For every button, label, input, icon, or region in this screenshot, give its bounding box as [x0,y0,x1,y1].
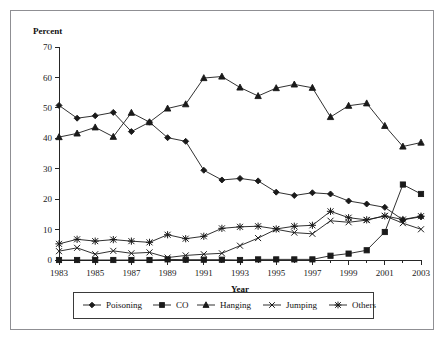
data-point-square [364,248,369,253]
data-point-diamond [74,115,80,121]
data-point-square [75,257,80,262]
data-point-asterisk [200,233,207,240]
y-tick-label: 40 [43,133,53,143]
data-point-asterisk [381,212,388,219]
x-tick-label: 1997 [303,268,322,278]
y-tick-label: 70 [43,42,53,52]
y-tick-label: 50 [43,103,53,113]
data-point-diamond [382,204,388,210]
data-point-square [256,257,261,262]
data-point-diamond [183,138,189,144]
data-point-asterisk [327,208,334,215]
data-point-asterisk [399,216,406,223]
data-point-triangle [255,93,261,99]
data-point-square [418,191,423,196]
legend-label: Jumping [286,300,318,310]
data-point-asterisk [182,235,189,242]
data-point-square [274,257,279,262]
data-point-asterisk [273,225,280,232]
data-point-triangle [327,114,333,120]
data-point-square [201,257,206,262]
x-tick-label: 1995 [267,268,286,278]
x-tick-label: 1987 [122,268,141,278]
legend-label: Poisoning [106,300,143,310]
data-point-triangle [219,73,225,79]
data-point-x [418,226,424,232]
data-point-square [382,229,387,234]
data-point-diamond [309,190,315,196]
x-tick-label: 1985 [86,268,105,278]
data-point-triangle [128,109,134,115]
x-tick-label: 1991 [195,268,213,278]
series-group [55,73,424,262]
data-point-square [219,257,224,262]
data-point-asterisk [146,239,153,246]
data-point-square [328,253,333,258]
data-point-asterisk [110,236,117,243]
data-point-square [400,182,405,187]
data-point-asterisk [218,225,225,232]
data-point-x [237,243,243,249]
data-point-triangle [291,81,297,87]
data-point-diamond [237,175,243,181]
data-point-diamond [92,113,98,119]
data-point-square [292,257,297,262]
data-point-asterisk [335,302,342,309]
data-point-square [147,257,152,262]
y-tick-label: 60 [43,73,53,83]
series-others [55,208,424,248]
data-point-asterisk [164,231,171,238]
chart-legend: PoisoningCOHangingJumpingOthers [73,292,376,318]
legend-label: Hanging [220,300,251,310]
data-point-asterisk [92,238,99,245]
data-point-asterisk [363,216,370,223]
data-point-square [129,257,134,262]
y-tick-label: 30 [43,164,53,174]
x-tick-label: 1993 [231,268,250,278]
data-point-triangle [418,139,424,145]
data-point-square [56,257,61,262]
x-tick-label: 1989 [159,268,178,278]
data-point-diamond [219,177,225,183]
data-point-diamond [291,192,297,198]
data-point-diamond [255,178,261,184]
data-point-square [346,251,351,256]
data-point-asterisk [255,223,262,230]
x-tick-label: 2003 [412,268,431,278]
y-tick-label: 0 [48,255,53,265]
y-tick-label: 10 [43,225,53,235]
line-chart: 0102030405060701983198519871989199119931… [11,11,433,329]
data-point-diamond [328,191,334,197]
x-tick-label: 1999 [340,268,359,278]
data-point-diamond [201,167,207,173]
axes-group [55,47,421,265]
data-point-square [160,303,165,308]
data-point-asterisk [236,223,243,230]
data-point-triangle [92,124,98,130]
data-point-asterisk [128,238,135,245]
data-point-square [111,257,116,262]
x-tick-label: 1983 [50,268,69,278]
figure-frame: 0102030405060701983198519871989199119931… [10,10,434,330]
data-point-diamond [346,198,352,204]
y-tick-label: 20 [43,194,53,204]
legend-label: Others [352,300,376,310]
data-point-diamond [364,201,370,207]
axis-labels-group: 0102030405060701983198519871989199119931… [33,26,431,294]
data-point-asterisk [309,222,316,229]
data-point-asterisk [55,240,62,247]
data-point-asterisk [291,223,298,230]
data-point-square [93,257,98,262]
x-tick-label: 2001 [376,268,394,278]
data-point-triangle [364,100,370,106]
data-point-diamond [273,189,279,195]
y-axis-title: Percent [33,26,62,36]
data-point-triangle [237,84,243,90]
data-point-asterisk [417,213,424,220]
series-poisoning [56,102,424,222]
data-point-square [310,257,315,262]
legend-label: CO [176,300,189,310]
data-point-square [237,257,242,262]
data-point-asterisk [345,214,352,221]
data-point-asterisk [74,236,81,243]
